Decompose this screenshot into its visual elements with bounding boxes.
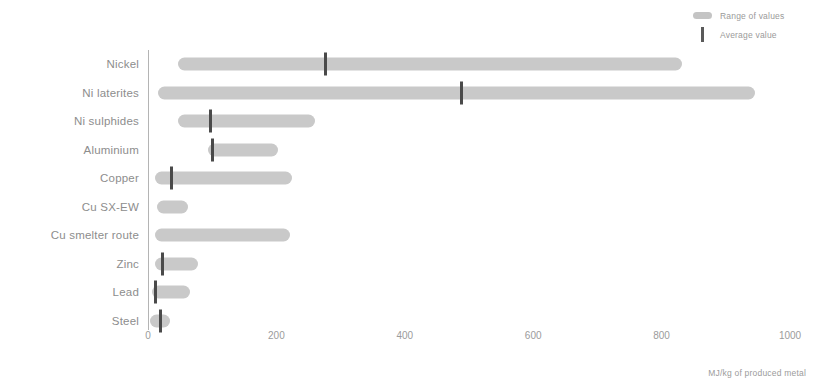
chart-row: Ni laterites xyxy=(0,79,817,108)
category-label: Copper xyxy=(0,172,139,184)
chart-legend: Range of values Average value xyxy=(684,6,817,44)
category-label: Ni sulphides xyxy=(0,115,139,127)
average-marker xyxy=(460,81,463,104)
average-marker xyxy=(170,167,173,190)
range-bar xyxy=(157,200,188,213)
range-bar xyxy=(155,229,290,242)
average-marker xyxy=(211,138,214,161)
category-label: Cu SX-EW xyxy=(0,201,139,213)
range-bar xyxy=(158,86,754,99)
chart-row: Aluminium xyxy=(0,136,817,165)
range-bar xyxy=(155,172,292,185)
legend-label-range: Range of values xyxy=(720,11,784,21)
category-label: Ni laterites xyxy=(0,87,139,99)
category-label: Lead xyxy=(0,286,139,298)
chart-row: Copper xyxy=(0,164,817,193)
x-axis-tick: 1000 xyxy=(779,330,801,341)
legend-item-average: Average value xyxy=(684,25,817,44)
chart-row: Ni sulphides xyxy=(0,107,817,136)
category-label: Aluminium xyxy=(0,144,139,156)
range-bar xyxy=(178,58,682,71)
x-axis-tick: 600 xyxy=(525,330,542,341)
chart-row: Zinc xyxy=(0,250,817,279)
average-marker xyxy=(324,53,327,76)
legend-label-average: Average value xyxy=(720,30,777,40)
range-bar xyxy=(208,143,277,156)
chart-row: Nickel xyxy=(0,50,817,79)
chart-row: Lead xyxy=(0,278,817,307)
x-axis-tick: 800 xyxy=(653,330,670,341)
x-axis-title: MJ/kg of produced metal xyxy=(0,368,806,378)
average-marker xyxy=(209,110,212,133)
average-marker xyxy=(159,309,162,332)
range-bar xyxy=(178,115,315,128)
category-label: Cu smelter route xyxy=(0,229,139,241)
x-axis-tick: 400 xyxy=(396,330,413,341)
average-marker xyxy=(154,281,157,304)
x-axis-tick: 0 xyxy=(145,330,151,341)
average-bar-icon xyxy=(684,27,720,42)
x-axis-tick: 200 xyxy=(268,330,285,341)
category-label: Zinc xyxy=(0,258,139,270)
category-label: Steel xyxy=(0,315,139,327)
chart-row: Cu SX-EW xyxy=(0,193,817,222)
plot-area: NickelNi lateritesNi sulphidesAluminiumC… xyxy=(0,50,817,335)
chart-container: Range of values Average value NickelNi l… xyxy=(0,0,817,391)
range-bar xyxy=(152,286,190,299)
chart-row: Cu smelter route xyxy=(0,221,817,250)
x-axis: 02004006008001000 xyxy=(0,330,817,350)
category-label: Nickel xyxy=(0,58,139,70)
range-pill-icon xyxy=(684,12,720,19)
average-marker xyxy=(161,252,164,275)
legend-item-range: Range of values xyxy=(684,6,817,25)
